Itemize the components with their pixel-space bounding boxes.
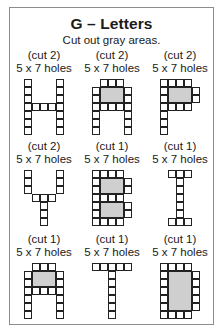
- hole-cell: [24, 170, 32, 178]
- hole-size: 5 x 7 holes: [10, 62, 78, 75]
- hole-cell: [160, 279, 168, 287]
- hole-cell: [100, 103, 108, 111]
- hole-cell: [184, 263, 192, 271]
- hole-cell: [192, 95, 200, 103]
- hole-cell: [108, 303, 116, 311]
- hole-cell: [56, 279, 64, 287]
- hole-cell: [100, 263, 108, 271]
- hole-cell: [56, 271, 64, 279]
- hole-cell: [116, 218, 124, 226]
- letter-card-b: (cut 1) 5 x 7 holes: [78, 140, 146, 226]
- hole-cell: [56, 287, 64, 295]
- hole-cell: [92, 119, 100, 127]
- hole-cell: [24, 279, 32, 287]
- hole-cell: [56, 119, 64, 127]
- hole-cell: [24, 186, 32, 194]
- letter-pattern-b: [92, 170, 132, 226]
- cut-count: (cut 1): [78, 233, 146, 246]
- hole-cell: [184, 103, 192, 111]
- letter-card-t: (cut 1) 5 x 7 holes: [78, 233, 146, 319]
- hole-cell: [160, 119, 168, 127]
- hole-cell: [92, 210, 100, 218]
- letter-pattern-a2: [24, 263, 64, 319]
- hole-cell: [108, 218, 116, 226]
- cut-count: (cut 1): [146, 233, 214, 246]
- letter-card-y: (cut 2) 5 x 7 holes: [10, 140, 78, 226]
- hole-cell: [160, 127, 168, 135]
- hole-cell: [116, 170, 124, 178]
- hole-cell: [124, 263, 132, 271]
- hole-size: 5 x 7 holes: [10, 246, 78, 259]
- hole-cell: [160, 79, 168, 87]
- hole-cell: [108, 170, 116, 178]
- hole-cell: [192, 87, 200, 95]
- letter-card-d: (cut 1) 5 x 7 holes: [146, 233, 214, 319]
- hole-cell: [160, 271, 168, 279]
- cut-count: (cut 1): [146, 140, 214, 153]
- hole-cell: [116, 103, 124, 111]
- hole-cell: [100, 170, 108, 178]
- letter-card-p: (cut 2) 5 x 7 holes: [146, 49, 214, 135]
- page-title: G – Letters: [10, 15, 213, 33]
- hole-cell: [124, 210, 132, 218]
- hole-cell: [108, 287, 116, 295]
- hole-cell: [40, 263, 48, 271]
- hole-cell: [108, 103, 116, 111]
- hole-cell: [40, 202, 48, 210]
- hole-cell: [56, 95, 64, 103]
- hole-cell: [124, 127, 132, 135]
- hole-cell: [160, 311, 168, 319]
- hole-cell: [40, 194, 48, 202]
- hole-cell: [176, 170, 184, 178]
- hole-cell: [160, 111, 168, 119]
- letter-card-a: (cut 2) 5 x 7 holes: [78, 49, 146, 135]
- hole-cell: [92, 127, 100, 135]
- hole-cell: [124, 95, 132, 103]
- hole-cell: [192, 279, 200, 287]
- gray-cutout-area: [168, 87, 192, 103]
- cut-count: (cut 2): [10, 140, 78, 153]
- hole-cell: [48, 263, 56, 271]
- hole-cell: [124, 186, 132, 194]
- hole-cell: [24, 303, 32, 311]
- hole-cell: [56, 79, 64, 87]
- letter-pattern-y: [24, 170, 64, 226]
- letter-pattern-h: [24, 79, 64, 135]
- hole-cell: [160, 87, 168, 95]
- gray-cutout-area: [100, 178, 124, 194]
- hole-cell: [92, 103, 100, 111]
- hole-cell: [92, 194, 100, 202]
- hole-cell: [176, 186, 184, 194]
- hole-cell: [168, 263, 176, 271]
- cut-count: (cut 2): [10, 49, 78, 62]
- hole-cell: [32, 103, 40, 111]
- hole-cell: [184, 218, 192, 226]
- hole-cell: [24, 287, 32, 295]
- hole-cell: [168, 218, 176, 226]
- hole-cell: [176, 79, 184, 87]
- hole-cell: [160, 303, 168, 311]
- hole-cell: [56, 178, 64, 186]
- hole-cell: [124, 119, 132, 127]
- hole-cell: [24, 95, 32, 103]
- hole-cell: [56, 295, 64, 303]
- gray-cutout-area: [32, 271, 56, 287]
- hole-cell: [176, 194, 184, 202]
- hole-cell: [160, 295, 168, 303]
- cut-count: (cut 1): [10, 233, 78, 246]
- hole-cell: [108, 279, 116, 287]
- hole-cell: [116, 194, 124, 202]
- hole-cell: [100, 79, 108, 87]
- hole-cell: [100, 194, 108, 202]
- hole-cell: [124, 178, 132, 186]
- hole-cell: [56, 303, 64, 311]
- hole-cell: [24, 111, 32, 119]
- hole-cell: [24, 103, 32, 111]
- hole-cell: [176, 263, 184, 271]
- hole-cell: [176, 210, 184, 218]
- hole-cell: [108, 263, 116, 271]
- letter-pattern-d: [160, 263, 200, 319]
- hole-cell: [32, 194, 40, 202]
- hole-cell: [24, 178, 32, 186]
- hole-cell: [24, 79, 32, 87]
